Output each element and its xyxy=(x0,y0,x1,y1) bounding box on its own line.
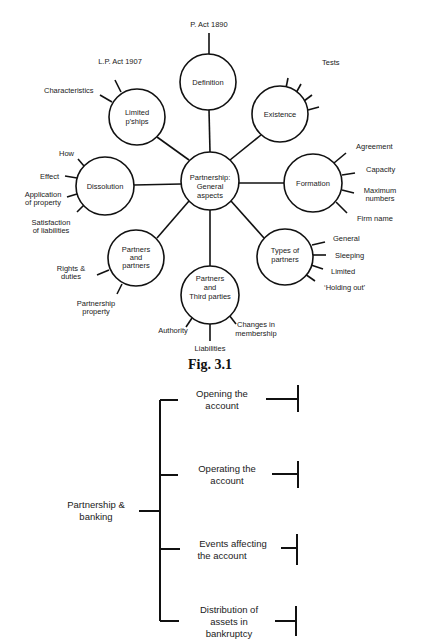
spoke-types-of-partners xyxy=(231,201,264,238)
existence-label: Existence xyxy=(264,110,297,119)
label-sleeping: Sleeping xyxy=(335,251,364,260)
label-how: How xyxy=(59,149,75,158)
label-property: property xyxy=(82,307,110,316)
label-holding-out: ‘Holding out’ xyxy=(324,283,366,292)
tick-satisfaction xyxy=(77,205,84,212)
branch-1-label-1: Opening the xyxy=(196,388,248,399)
formation-label: Formation xyxy=(296,179,330,188)
center-label-1: Partnership: xyxy=(190,173,230,182)
branch-1-label-2: account xyxy=(205,400,239,411)
label-numbers: numbers xyxy=(365,194,394,203)
tick-application xyxy=(67,194,77,197)
limited-label-1: Limited xyxy=(125,108,149,117)
types-label-2: partners xyxy=(271,255,299,264)
branch-3-label-1: Events affecting xyxy=(199,538,266,549)
page-canvas: Partnership: General aspects Definition … xyxy=(0,0,421,644)
spoke-partners-and-partners xyxy=(157,201,189,238)
pap-label-3: partners xyxy=(122,261,150,270)
label-agreement: Agreement xyxy=(356,142,394,151)
ptp-label-3: Third parties xyxy=(189,292,231,301)
tick-effect xyxy=(65,176,77,178)
ptp-label-2: and xyxy=(204,283,217,292)
node-existence: Existence xyxy=(252,86,308,142)
label-limited: Limited xyxy=(331,267,355,276)
tick-maximum xyxy=(342,190,354,193)
tick-lp-act xyxy=(115,80,121,92)
banking-tree: Partnership & banking Opening the accoun… xyxy=(67,385,298,639)
tick-partnership-property xyxy=(117,284,122,294)
branch-2-label-1: Operating the xyxy=(198,463,256,474)
label-duties: duties xyxy=(61,272,81,281)
branch-4-label-2: assets in xyxy=(210,616,248,627)
dissolution-label: Dissolution xyxy=(87,182,124,191)
tick-general xyxy=(312,242,325,245)
spoke-definition xyxy=(209,110,210,152)
node-limited-pships: Limited p’ships xyxy=(109,89,165,145)
tick-existence-4 xyxy=(308,107,319,110)
label-authority: Authority xyxy=(158,326,188,335)
label-of-property: of property xyxy=(25,198,61,207)
label-characteristics: Characteristics xyxy=(44,86,94,95)
figure-caption: Fig. 3.1 xyxy=(188,357,232,372)
node-dissolution: Dissolution xyxy=(76,157,134,215)
banking-root-label-1: Partnership & xyxy=(67,499,125,510)
center-label-3: aspects xyxy=(197,191,223,200)
tick-characteristics xyxy=(100,95,112,102)
node-formation: Formation xyxy=(284,154,342,212)
node-types-of-partners: Types of partners xyxy=(257,229,313,285)
spoke-dissolution xyxy=(134,184,181,185)
limited-label-2: p’ships xyxy=(125,117,148,126)
branch-2-label-2: account xyxy=(210,475,244,486)
tick-capacity xyxy=(342,173,355,175)
tick-rights xyxy=(97,270,109,275)
branch-4-label-3: bankruptcy xyxy=(206,628,253,639)
label-of-liabilities: of liabilities xyxy=(33,226,70,235)
node-partners-and-partners: Partners and partners xyxy=(108,230,164,286)
node-center: Partnership: General aspects xyxy=(181,152,239,210)
branch-3-label-2: the account xyxy=(197,550,246,561)
ptp-label-1: Partners xyxy=(196,274,225,283)
node-partners-third-parties: Partners and Third parties xyxy=(181,266,239,324)
branch-4-label-1: Distribution of xyxy=(200,604,258,615)
label-general: General xyxy=(333,234,360,243)
tick-limited xyxy=(311,265,323,269)
node-definition: Definition xyxy=(180,54,236,110)
label-membership: membership xyxy=(235,329,276,338)
tick-agreement xyxy=(334,153,346,163)
label-effect: Effect xyxy=(40,172,60,181)
label-changes-in: Changes in xyxy=(237,320,275,329)
label-firm-name: Firm name xyxy=(357,214,393,223)
tick-how xyxy=(78,159,84,166)
label-p-act: P. Act 1890 xyxy=(190,20,227,29)
definition-label: Definition xyxy=(192,78,223,87)
center-label-2: General xyxy=(197,182,224,191)
spoke-limited-pships xyxy=(157,137,189,160)
label-capacity: Capacity xyxy=(366,165,395,174)
types-label-1: Types of xyxy=(271,246,300,255)
spoke-existence xyxy=(230,135,261,160)
banking-root-label-2: banking xyxy=(79,511,112,522)
label-tests: Tests xyxy=(322,58,340,67)
label-lp-act: L.P. Act 1907 xyxy=(98,57,142,66)
label-liabilities: Liabilities xyxy=(195,344,226,353)
tick-firm-name xyxy=(336,202,347,213)
